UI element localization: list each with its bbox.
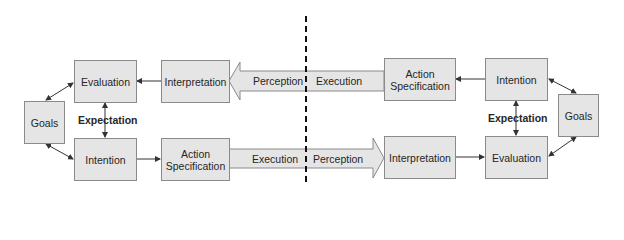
right-goals-label: Goals xyxy=(565,110,592,122)
bottom-right-perception-label: Perception xyxy=(313,153,363,165)
top-left-perception-label: Perception xyxy=(253,75,303,87)
left-interpretation-box: Interpretation xyxy=(161,60,230,103)
left-goals-box: Goals xyxy=(24,101,65,144)
left-action-specification-box: Action Specification xyxy=(161,138,230,181)
right-interpretation-box: Interpretation xyxy=(384,136,456,179)
left-action-spec-line1: Action xyxy=(181,148,210,160)
right-evaluation-box: Evaluation xyxy=(485,136,548,179)
left-action-spec-line2: Specification xyxy=(166,160,226,172)
bottom-left-execution-label: Execution xyxy=(252,153,298,165)
left-intention-label: Intention xyxy=(85,154,125,166)
left-intention-box: Intention xyxy=(74,138,137,181)
right-action-spec-line1: Action xyxy=(405,68,434,80)
right-goals-box: Goals xyxy=(558,94,599,137)
right-action-spec-line2: Specification xyxy=(390,80,450,92)
left-goals-label: Goals xyxy=(31,117,58,129)
right-evaluation-label: Evaluation xyxy=(492,152,541,164)
left-evaluation-box: Evaluation xyxy=(74,60,137,103)
left-evaluation-label: Evaluation xyxy=(81,76,130,88)
right-action-specification-box: Action Specification xyxy=(384,58,456,101)
right-intention-label: Intention xyxy=(496,74,536,86)
left-interpretation-label: Interpretation xyxy=(165,76,227,88)
right-expectation-label: Expectation xyxy=(488,112,548,124)
right-intention-box: Intention xyxy=(485,58,548,101)
left-expectation-label: Expectation xyxy=(78,114,138,126)
right-interpretation-label: Interpretation xyxy=(389,152,451,164)
top-right-execution-label: Execution xyxy=(316,75,362,87)
